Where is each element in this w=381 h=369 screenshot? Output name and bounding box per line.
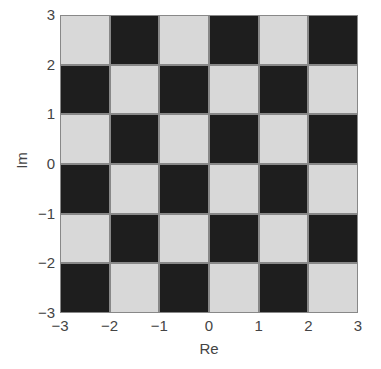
y-tick-label: 3	[15, 7, 55, 22]
checker-cell	[159, 164, 209, 214]
checker-cell	[60, 263, 110, 313]
checker-cell	[209, 65, 259, 115]
checker-cell	[60, 164, 110, 214]
checker-cell	[209, 214, 259, 264]
checker-cell	[308, 214, 358, 264]
checker-cell	[110, 164, 160, 214]
y-tick-label: −2	[15, 255, 55, 270]
checker-cell	[259, 214, 309, 264]
checker-cell	[209, 15, 259, 65]
checker-cell	[60, 214, 110, 264]
y-axis-label: Im	[13, 146, 30, 176]
checker-cell	[259, 15, 309, 65]
checker-cell	[308, 114, 358, 164]
x-tick-label: 2	[288, 318, 328, 333]
checker-cell	[308, 164, 358, 214]
checker-cell	[259, 114, 309, 164]
checker-cell	[209, 263, 259, 313]
checker-cell	[60, 15, 110, 65]
checker-cell	[110, 114, 160, 164]
x-axis-label: Re	[189, 340, 229, 357]
checker-cell	[308, 263, 358, 313]
checkerboard-plot-area	[60, 15, 358, 313]
checker-cell	[159, 214, 209, 264]
checker-cell	[159, 65, 209, 115]
checker-cell	[259, 65, 309, 115]
x-tick-label: −3	[40, 318, 80, 333]
checker-cell	[209, 164, 259, 214]
x-tick-label: 1	[239, 318, 279, 333]
checker-cell	[308, 15, 358, 65]
y-tick-label: 2	[15, 57, 55, 72]
x-tick-label: 0	[189, 318, 229, 333]
x-tick-label: −1	[139, 318, 179, 333]
checker-cell	[159, 263, 209, 313]
checker-cell	[259, 164, 309, 214]
checker-cell	[209, 114, 259, 164]
checker-cell	[110, 263, 160, 313]
checker-cell	[259, 263, 309, 313]
checker-cell	[159, 114, 209, 164]
checker-cell	[60, 114, 110, 164]
checker-cell	[110, 65, 160, 115]
x-tick-label: −2	[90, 318, 130, 333]
checker-cell	[110, 214, 160, 264]
checker-cell	[159, 15, 209, 65]
checker-cell	[110, 15, 160, 65]
y-tick-label: 1	[15, 106, 55, 121]
x-tick-label: 3	[338, 318, 378, 333]
checker-cell	[60, 65, 110, 115]
checker-cell	[308, 65, 358, 115]
y-tick-label: −1	[15, 206, 55, 221]
